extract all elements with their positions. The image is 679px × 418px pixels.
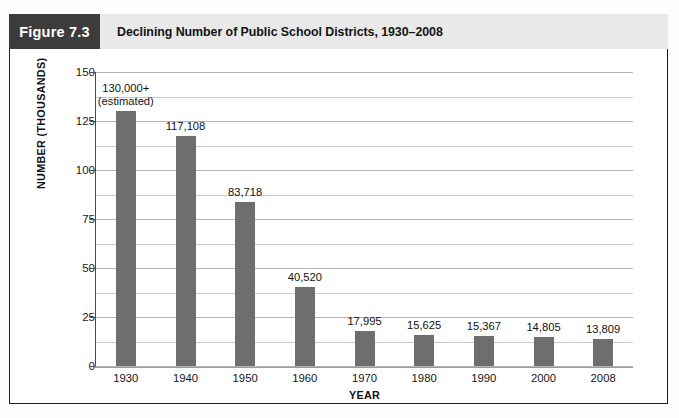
x-tick-label: 1930: [96, 372, 156, 384]
bar-value-label: 130,000+(estimated): [78, 82, 174, 108]
x-tick-label: 1990: [454, 372, 514, 384]
figure-header: Figure 7.3 Declining Number of Public Sc…: [9, 14, 668, 49]
figure-container: Figure 7.3 Declining Number of Public Sc…: [0, 0, 679, 418]
gridline-major: [96, 366, 633, 367]
bar-value-line: (estimated): [78, 95, 174, 108]
bar: [116, 111, 136, 366]
bar: [176, 136, 196, 366]
gridline-minor: [96, 97, 633, 98]
bar-value-label: 13,809: [555, 323, 651, 336]
gridline-major: [96, 72, 633, 73]
y-axis-title: NUMBER (THOUSANDS): [35, 99, 47, 189]
bar-value-line: 13,809: [555, 323, 651, 336]
bar: [414, 335, 434, 366]
bar-value-line: 130,000+: [78, 82, 174, 95]
x-tick-label: 1980: [394, 372, 454, 384]
bar: [474, 336, 494, 366]
bar: [593, 339, 613, 366]
x-tick-label: 2000: [514, 372, 574, 384]
x-tick-label: 1960: [275, 372, 335, 384]
x-tick-label: 1950: [215, 372, 275, 384]
bar-value-label: 40,520: [257, 271, 353, 284]
bar: [355, 331, 375, 366]
x-tick-label: 1940: [156, 372, 216, 384]
x-axis-title: YEAR: [96, 389, 633, 401]
bar-value-label: 83,718: [197, 186, 293, 199]
bar-value-label: 117,108: [138, 120, 234, 133]
bar-value-line: 83,718: [197, 186, 293, 199]
x-tick-label: 1970: [335, 372, 395, 384]
y-axis-ticks: 0255075100125150: [50, 72, 95, 366]
plot-area: 130,000+(estimated)117,10883,71840,52017…: [96, 72, 633, 366]
figure-number-badge: Figure 7.3: [9, 14, 100, 49]
bar: [295, 287, 315, 366]
x-tick-label: 2008: [573, 372, 633, 384]
bar-value-line: 117,108: [138, 120, 234, 133]
figure-title: Declining Number of Public School Distri…: [100, 14, 668, 49]
bar: [534, 337, 554, 366]
bar-value-line: 40,520: [257, 271, 353, 284]
bar: [235, 202, 255, 366]
